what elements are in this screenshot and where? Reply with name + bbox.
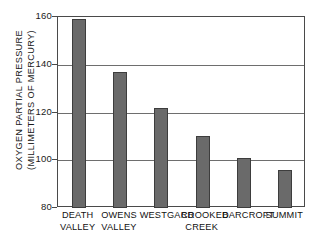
x-axis-category-label-line-1: OWENS — [101, 210, 137, 220]
y-axis-title-line-1: OXYGEN PARTIAL PRESSURE — [13, 30, 25, 170]
x-axis-category-label-line-2: VALLEY — [98, 222, 139, 234]
x-axis-category-label-line-2: VALLEY — [57, 222, 98, 234]
gridline — [58, 160, 304, 161]
y-axis-tick-label: 100 — [18, 153, 52, 164]
x-axis-category-label-line-1: SUMMIT — [266, 210, 303, 220]
bar-chart-figure: OXYGEN PARTIAL PRESSURE (MILLIMETERS OF … — [0, 0, 317, 249]
plot-area — [57, 16, 305, 207]
x-axis-category-label: CROOKEDCREEK — [181, 210, 222, 233]
y-axis-tick-label: 120 — [18, 106, 52, 117]
x-axis-category-label: SUMMIT — [264, 210, 305, 222]
gridline — [58, 65, 304, 66]
x-axis-category-label: BARCROFT — [222, 210, 263, 222]
bar — [278, 170, 292, 208]
x-axis-category-label-line-2: CREEK — [181, 222, 222, 234]
y-axis-tick-label: 140 — [18, 58, 52, 69]
x-axis-category-label: WESTGARD — [140, 210, 181, 222]
bar — [154, 108, 168, 208]
x-axis-category-label: DEATHVALLEY — [57, 210, 98, 233]
x-axis-category-label-line-1: DEATH — [62, 210, 93, 220]
y-axis-title-line-2: (MILLIMETERS OF MERCURY) — [25, 30, 37, 170]
bar — [237, 158, 251, 208]
y-axis-title: OXYGEN PARTIAL PRESSURE (MILLIMETERS OF … — [8, 0, 42, 200]
bar — [196, 136, 210, 208]
y-axis-tick-label: 160 — [18, 10, 52, 21]
y-axis-tick-mark — [52, 207, 57, 208]
bar — [113, 72, 127, 208]
bar — [72, 19, 86, 208]
gridline — [58, 113, 304, 114]
y-axis-tick-label: 80 — [18, 201, 52, 212]
x-axis-category-label: OWENSVALLEY — [98, 210, 139, 233]
x-axis-category-labels: DEATHVALLEYOWENSVALLEYWESTGARDCROOKEDCRE… — [57, 210, 305, 246]
